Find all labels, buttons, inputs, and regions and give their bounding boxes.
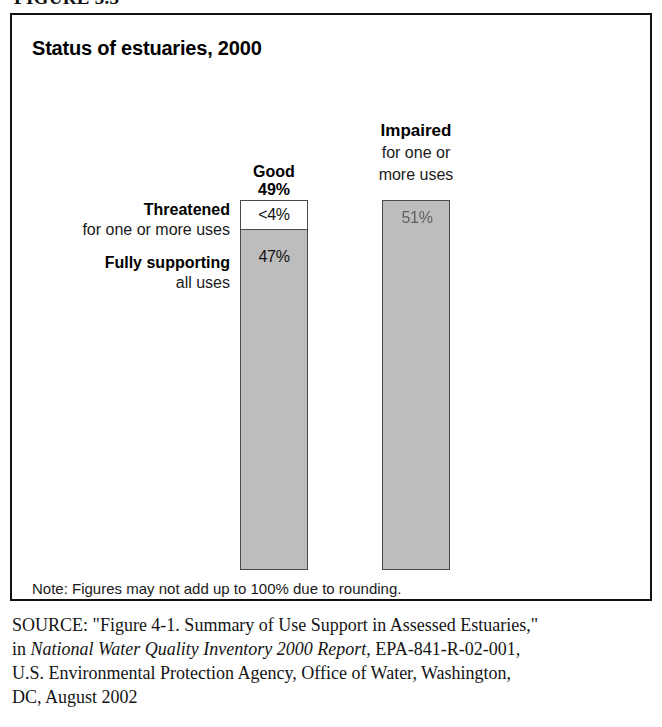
bar-segment-fully-supporting-value: 47% [258,248,289,266]
bar-header-impaired-sub-line2: more uses [352,164,480,186]
side-label-fully-supporting-sub: all uses [25,273,230,293]
bar-header-good: Good 49% [240,163,308,199]
side-label-threatened-sub: for one or more uses [25,220,230,240]
source-line1: "Figure 4-1. Summary of Use Support in A… [88,615,538,635]
side-label-threatened-main: Threatened [25,200,230,220]
bar-header-good-value: 49% [258,181,290,198]
chart-note: Note: Figures may not add up to 100% due… [32,580,401,597]
bar-good: <4% 47% [240,200,308,570]
side-label-fully-supporting: Fully supporting all uses [25,253,240,293]
bar-header-good-label: Good [253,163,295,180]
chart-panel: Status of estuaries, 2000 Good 49% Impai… [10,13,652,601]
source-line3: U.S. Environmental Protection Agency, Of… [12,663,511,683]
source-keyword: SOURCE: [12,615,88,635]
bar-header-impaired-sub-line1: for one or [352,142,480,164]
bar-segment-threatened-value: <4% [258,206,290,224]
bar-segment-threatened: <4% [240,200,308,230]
figure-caption: FIGURE 3.3 [14,0,119,9]
chart-plot-area: Good 49% Impaired for one or more uses T… [12,15,654,603]
bar-impaired: 51% [382,200,450,570]
side-label-threatened: Threatened for one or more uses [25,200,240,240]
bar-header-impaired: Impaired for one or more uses [352,120,480,186]
bar-segment-fully-supporting: 47% [240,229,308,570]
source-line4: DC, August 2002 [12,687,138,707]
bar-impaired-value: 51% [383,209,451,227]
source-line2-title: National Water Quality Inventory 2000 Re… [31,639,371,659]
source-citation: SOURCE: "Figure 4-1. Summary of Use Supp… [12,613,657,709]
bar-header-impaired-label: Impaired [352,120,480,142]
source-line2-prefix: in [12,639,31,659]
side-label-fully-supporting-main: Fully supporting [25,253,230,273]
source-line2-suffix: EPA-841-R-02-001, [371,639,520,659]
